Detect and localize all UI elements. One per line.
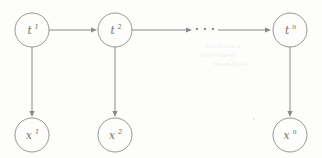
edge-t2-to-ellipsis <box>132 27 192 32</box>
node-superscript-x1: 1 <box>35 128 39 136</box>
node-circle-t2[interactable] <box>98 13 132 47</box>
edge-t1-to-x1 <box>29 47 34 117</box>
node-circle-t1[interactable] <box>15 13 49 47</box>
edge-tn-to-xn <box>287 47 292 117</box>
node-superscript-x2: 2 <box>117 128 122 136</box>
edge-t2-to-x2 <box>112 47 117 117</box>
scan-bleed-line-3: bleed-line-c <box>214 60 248 67</box>
scan-bleed-line-1: bleed-line-a <box>206 42 240 49</box>
ellipsis-dot-2 <box>204 28 207 31</box>
node-superscript-t2: 2 <box>117 23 122 31</box>
node-superscript-t1: 1 <box>35 23 39 31</box>
edge-t1-to-t2 <box>49 27 97 32</box>
ellipsis-dot-3 <box>212 28 215 31</box>
scan-bleed-line-2: bleed-line-b <box>200 51 235 58</box>
node-circle-xn[interactable] <box>273 118 307 152</box>
node-x1[interactable]: x 1 <box>15 118 49 152</box>
node-t1[interactable]: t 1 <box>15 13 49 47</box>
node-circle-tn[interactable] <box>273 13 307 47</box>
node-xn[interactable]: x n <box>273 118 307 152</box>
arrow-head-t2-ellipsis <box>186 27 192 32</box>
scan-speck <box>253 118 255 120</box>
diagram-canvas: t 1 t 2 t n x 1 x 2 x n <box>0 0 322 158</box>
arrow-head-t1-x1 <box>29 111 34 117</box>
node-t2[interactable]: t 2 <box>98 13 132 47</box>
arrow-head-t2-x2 <box>112 111 117 117</box>
node-label-xn: x <box>284 129 290 141</box>
node-circle-x2[interactable] <box>98 118 132 152</box>
node-superscript-tn: n <box>292 23 296 31</box>
node-tn[interactable]: t n <box>273 13 307 47</box>
node-label-x2: x <box>109 129 115 141</box>
node-label-x1: x <box>26 129 32 141</box>
arrow-head-tn-xn <box>287 111 292 117</box>
arrow-head-t1-t2 <box>91 27 97 32</box>
horizontal-ellipsis-icon <box>196 28 215 31</box>
node-x2[interactable]: x 2 <box>98 118 132 152</box>
node-superscript-xn: n <box>293 128 297 136</box>
arrow-head-ellipsis-tn <box>265 27 271 32</box>
graph-svg: t 1 t 2 t n x 1 x 2 x n <box>0 0 322 158</box>
edge-ellipsis-to-tn <box>218 27 271 32</box>
ellipsis-dot-1 <box>196 28 199 31</box>
node-circle-x1[interactable] <box>15 118 49 152</box>
